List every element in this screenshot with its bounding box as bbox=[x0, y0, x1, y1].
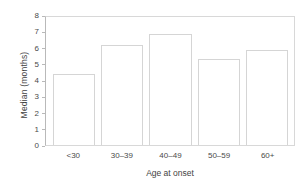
y-tick-3: 3 bbox=[0, 92, 45, 102]
y-tick-7: 7 bbox=[0, 27, 45, 37]
y-tick-1: 1 bbox=[0, 125, 45, 135]
y-tick-8: 8 bbox=[0, 11, 45, 21]
x-axis-title: Age at onset bbox=[45, 168, 295, 178]
bar-1 bbox=[101, 45, 143, 145]
y-tick-8-label: 8 bbox=[35, 11, 39, 20]
plot-area bbox=[45, 16, 295, 146]
y-tick-0-label: 0 bbox=[35, 141, 39, 150]
y-tick-5: 5 bbox=[0, 60, 45, 70]
y-tick-4: 4 bbox=[0, 76, 45, 86]
y-tick-4-label: 4 bbox=[35, 76, 39, 85]
y-tick-2-label: 2 bbox=[35, 109, 39, 118]
y-tick-0: 0 bbox=[0, 141, 45, 151]
x-tick-2: 40–49 bbox=[146, 150, 195, 162]
x-tick-3: 50–59 bbox=[195, 150, 244, 162]
bar-0 bbox=[53, 74, 95, 145]
y-tick-3-label: 3 bbox=[35, 92, 39, 101]
bar-chart-figure: Median (months) 8 7 6 5 4 3 2 1 0 <30 30… bbox=[0, 0, 302, 190]
bar-4 bbox=[246, 50, 288, 145]
y-tick-6-label: 6 bbox=[35, 44, 39, 53]
bar-3 bbox=[198, 59, 240, 145]
x-axis-tick-labels: <30 30–39 40–49 50–59 60+ bbox=[45, 150, 295, 162]
y-tick-7-label: 7 bbox=[35, 27, 39, 36]
bar-series bbox=[46, 17, 294, 145]
x-tick-0: <30 bbox=[49, 150, 98, 162]
x-tick-1: 30–39 bbox=[98, 150, 147, 162]
y-tick-5-label: 5 bbox=[35, 60, 39, 69]
bar-2 bbox=[149, 34, 191, 145]
x-tick-4: 60+ bbox=[243, 150, 292, 162]
y-tick-6: 6 bbox=[0, 44, 45, 54]
y-tick-2: 2 bbox=[0, 109, 45, 119]
y-tick-1-label: 1 bbox=[35, 125, 39, 134]
